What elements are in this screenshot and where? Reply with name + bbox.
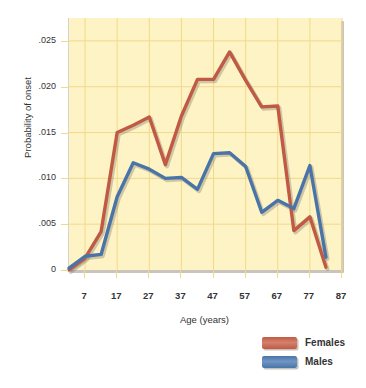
y-tick-.020 [61, 87, 68, 88]
x-tick-7 [84, 270, 85, 278]
y-tick-.010 [61, 178, 68, 179]
x-tick-37 [180, 270, 181, 278]
x-tick-67 [277, 270, 278, 278]
x-tick-57 [245, 270, 246, 278]
data-lines [69, 18, 342, 270]
legend-swatch-males [262, 356, 297, 368]
y-tick-label-.025: .025 [8, 35, 56, 45]
x-tick-17 [116, 270, 117, 278]
legend-item-females: Females [262, 333, 362, 352]
legend-label-females: Females [305, 337, 345, 348]
y-tick-label-0: 0 [8, 264, 56, 274]
y-tick-0 [61, 270, 68, 271]
x-tick-87 [341, 270, 342, 278]
x-axis-title: Age (years) [68, 314, 341, 325]
y-tick-label-.005: .005 [8, 218, 56, 228]
legend-item-males: Males [262, 352, 362, 371]
y-tick-.005 [61, 224, 68, 225]
x-tick-47 [213, 270, 214, 278]
legend-label-males: Males [305, 356, 333, 367]
x-tick-label-87: 87 [321, 290, 361, 301]
y-tick-.015 [61, 133, 68, 134]
y-axis-title: Probability of onset [22, 58, 33, 178]
legend-swatch-females [262, 337, 297, 349]
plot-area [68, 18, 341, 270]
x-tick-27 [148, 270, 149, 278]
chart-figure: probability of onset 0.005.010.015.020.0… [0, 0, 366, 388]
y-tick-.025 [61, 41, 68, 42]
x-tick-77 [309, 270, 310, 278]
legend: Females Males [262, 333, 362, 371]
